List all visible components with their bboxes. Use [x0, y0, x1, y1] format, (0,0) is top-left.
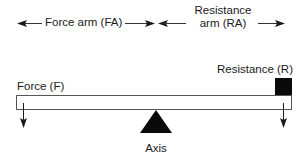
resistance-weight	[275, 78, 292, 95]
fulcrum-triangle-icon	[140, 110, 172, 133]
lever-beam	[17, 96, 292, 110]
force-arm-label: Force arm (FA)	[45, 16, 122, 29]
force-label: Force (F)	[17, 80, 64, 93]
resistance-label: Resistance (R)	[217, 63, 293, 76]
axis-label: Axis	[140, 142, 172, 155]
resistance-arm-label-line2: arm (RA)	[190, 17, 256, 30]
resistance-arm-label-line1: Resistance	[190, 4, 256, 17]
